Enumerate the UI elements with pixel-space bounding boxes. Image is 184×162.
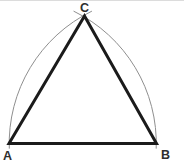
compass-arc-centered-a xyxy=(74,11,157,149)
vertex-label-a: A xyxy=(3,149,12,162)
figure-canvas: C A B xyxy=(0,0,184,162)
vertex-label-c: C xyxy=(80,1,89,15)
construction-figure: C A B xyxy=(0,0,184,162)
compass-arc-centered-b xyxy=(9,11,92,149)
triangle-abc xyxy=(9,16,157,144)
vertex-label-b: B xyxy=(161,148,170,162)
